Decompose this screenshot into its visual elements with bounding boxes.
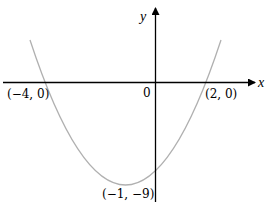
parabola-graph: x y 0 (−4, 0) (2, 0) (−1, −9) bbox=[0, 0, 266, 202]
root-right-label: (2, 0) bbox=[205, 87, 237, 101]
root-left-label: (−4, 0) bbox=[7, 87, 49, 101]
parabola-curve bbox=[30, 40, 221, 185]
origin-label: 0 bbox=[143, 86, 151, 100]
vertex-label: (−1, −9) bbox=[102, 187, 154, 201]
y-axis-label: y bbox=[138, 9, 147, 24]
x-axis-label: x bbox=[257, 75, 265, 90]
